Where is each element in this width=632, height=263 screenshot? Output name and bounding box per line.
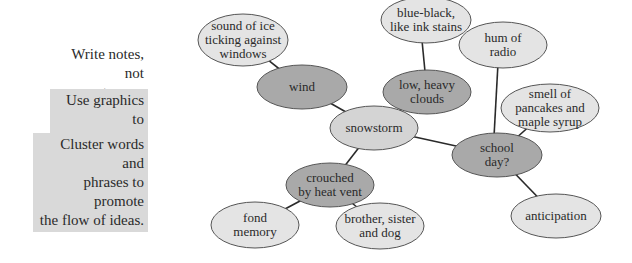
label-line: and dog xyxy=(345,226,416,240)
label-hum-of-radio: hum of radio xyxy=(484,31,521,59)
label-line: pancakes and xyxy=(515,101,585,115)
label-line: smell of xyxy=(515,87,585,101)
label-line: memory xyxy=(233,225,276,239)
label-line: crouched xyxy=(298,171,362,185)
label-line: like ink stains xyxy=(390,20,462,34)
label-line: low, heavy xyxy=(399,78,455,92)
label-line: anticipation xyxy=(525,209,586,223)
label-line: fond xyxy=(233,211,276,225)
label-school-day: school day? xyxy=(480,141,514,169)
label-line: windows xyxy=(205,47,281,61)
cluster-diagram xyxy=(0,0,632,263)
label-line: by heat vent xyxy=(298,185,362,199)
label-anticipation: anticipation xyxy=(525,209,586,223)
label-crouched: crouched by heat vent xyxy=(298,171,362,199)
label-line: blue-black, xyxy=(390,6,462,20)
label-line: day? xyxy=(480,155,514,169)
label-brother-sister: brother, sister and dog xyxy=(345,212,416,240)
label-line: sound of ice xyxy=(205,19,281,33)
label-blue-black: blue-black, like ink stains xyxy=(390,6,462,34)
label-smell-of-pancakes: smell of pancakes and maple syrup xyxy=(515,87,585,129)
label-line: brother, sister xyxy=(345,212,416,226)
label-line: ticking against xyxy=(205,33,281,47)
label-line: hum of xyxy=(484,31,521,45)
label-wind: wind xyxy=(289,80,315,94)
label-line: wind xyxy=(289,80,315,94)
label-sound-of-ice: sound of ice ticking against windows xyxy=(205,19,281,61)
label-line: school xyxy=(480,141,514,155)
label-snowstorm: snowstorm xyxy=(345,121,402,135)
label-low-heavy-clouds: low, heavy clouds xyxy=(399,78,455,106)
label-fond-memory: fond memory xyxy=(233,211,276,239)
label-line: snowstorm xyxy=(345,121,402,135)
label-line: radio xyxy=(484,45,521,59)
label-line: maple syrup xyxy=(515,115,585,129)
label-line: clouds xyxy=(399,92,455,106)
